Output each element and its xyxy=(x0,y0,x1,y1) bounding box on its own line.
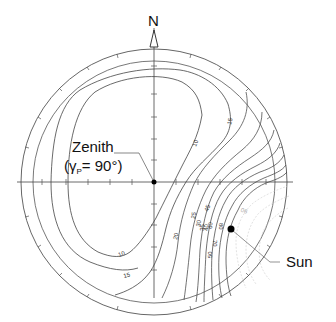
contour-label-45: 45 xyxy=(203,203,211,212)
contour-label-90: 90 xyxy=(239,207,248,215)
sun-label: Sun xyxy=(286,253,313,270)
north-arrow-icon xyxy=(150,30,158,47)
contour-label-15-upper: 15 xyxy=(226,117,234,126)
contours-faint xyxy=(236,186,289,288)
polar-contour-diagram: N 10 15 10 15 20 25 30 35 40 45 50 60 70… xyxy=(0,0,336,322)
north-label: N xyxy=(148,12,159,29)
zenith-label: Zenith xyxy=(72,138,114,155)
contour-label-25: 25 xyxy=(190,211,197,219)
contour-label-10-lower: 10 xyxy=(117,250,126,258)
sun-leader-line xyxy=(232,230,280,262)
zenith-dot xyxy=(152,180,157,185)
contour-label-50: 50 xyxy=(207,251,213,258)
contour-label-80: 80 xyxy=(218,223,224,230)
contour-15-right xyxy=(115,104,230,295)
zenith-sublabel: (γP= 90°) xyxy=(64,157,122,176)
contour-label-10-upper: 10 xyxy=(191,138,199,147)
contour-label-60: 60 xyxy=(207,221,214,229)
contours-high xyxy=(162,92,287,302)
contour-label-15-lower: 15 xyxy=(123,271,132,279)
contour-label-70: 70 xyxy=(212,240,218,247)
sun-dot xyxy=(228,226,235,233)
